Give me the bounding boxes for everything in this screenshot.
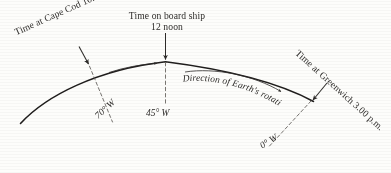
cape-cod-pointer-arrow xyxy=(79,47,89,65)
label-on-board-line2: 12 noon xyxy=(118,22,216,33)
meridian-label-45-west: 45° W xyxy=(146,108,169,118)
label-time-on-board-ship: Time on board ship 12 noon xyxy=(118,11,216,32)
figure-canvas: Direction of Earth's rotation Time at Ca… xyxy=(0,0,391,173)
